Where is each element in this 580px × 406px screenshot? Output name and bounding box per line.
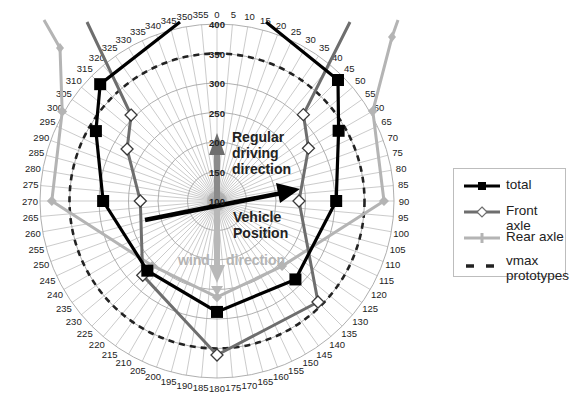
angle-tick-label: 5 <box>231 9 236 20</box>
angle-tick-label: 310 <box>66 75 82 86</box>
data-point-marker <box>330 195 342 207</box>
angle-tick-label: 165 <box>257 376 273 387</box>
annotation-wind-right: direction <box>226 252 285 268</box>
angle-tick-label: 250 <box>33 259 49 270</box>
radial-tick-label: 200 <box>209 137 225 148</box>
angle-tick-label: 65 <box>381 116 392 127</box>
legend-vmax-swatch-icon <box>462 259 502 273</box>
angle-tick-label: 200 <box>145 371 161 382</box>
angle-tick-label: 215 <box>102 349 118 360</box>
data-point-marker <box>293 195 305 207</box>
angle-tick-label: 105 <box>390 244 406 255</box>
angle-tick-label: 305 <box>56 88 72 99</box>
legend-item-vmax-prototypes: vmax prototypes <box>454 249 565 275</box>
angle-tick-label: 265 <box>23 212 39 223</box>
angle-tick-label: 245 <box>40 275 56 286</box>
angle-tick-label: 290 <box>33 132 49 143</box>
angle-tick-label: 135 <box>341 328 357 339</box>
wind-direction-arrow-icon <box>209 265 225 283</box>
radial-tick-label: 100 <box>209 196 225 207</box>
angle-tick-label: 110 <box>385 259 400 270</box>
legend-label-rear-axle: Rear axle <box>506 229 564 244</box>
angle-tick-label: 10 <box>244 11 255 22</box>
grid-spoke <box>142 41 217 201</box>
data-point-marker <box>211 306 223 318</box>
legend-item-rear-axle: Rear axle <box>454 225 565 251</box>
data-point-marker <box>94 78 106 90</box>
angle-tick-label: 100 <box>393 228 409 239</box>
angle-tick-label: 45 <box>344 63 355 74</box>
data-point-marker <box>121 143 133 155</box>
data-point-marker <box>141 265 153 277</box>
data-point-marker <box>332 74 344 86</box>
angle-tick-label: 220 <box>89 339 105 350</box>
angle-tick-label: 80 <box>396 163 407 174</box>
angle-tick-label: 35 <box>319 42 330 53</box>
radial-tick-label: 350 <box>209 49 225 60</box>
grid-spoke <box>142 201 217 361</box>
angle-tick-label: 30 <box>305 34 316 45</box>
legend-label-total: total <box>506 177 532 192</box>
data-point-marker <box>333 125 345 137</box>
angle-tick-label: 125 <box>362 303 378 314</box>
data-point-marker <box>302 142 314 154</box>
angle-tick-label: 255 <box>28 244 44 255</box>
angle-tick-label: 120 <box>371 289 387 300</box>
angle-tick-label: 150 <box>303 357 319 368</box>
angle-tick-label: 95 <box>398 212 409 223</box>
angle-tick-label: 280 <box>25 163 41 174</box>
angle-tick-label: 85 <box>398 179 409 190</box>
annotation-wind-left: wind <box>177 252 210 268</box>
legend-rear-axle-swatch-icon <box>462 231 502 245</box>
angle-tick-label: 130 <box>352 316 368 327</box>
annotation-vehicle-line2: Position <box>233 225 288 241</box>
angle-tick-label: 145 <box>316 349 332 360</box>
annotation-vehicle-line1: Vehicle <box>233 209 281 225</box>
data-point-marker <box>289 273 301 285</box>
legend-item-front-axle: Front axle <box>454 199 565 225</box>
angle-tick-label: 55 <box>365 88 376 99</box>
angle-tick-label: 90 <box>399 196 410 207</box>
angle-tick-label: 175 <box>225 382 241 393</box>
angle-tick-label: 350 <box>177 11 193 22</box>
angle-tick-label: 160 <box>273 371 289 382</box>
angle-tick-label: 25 <box>291 26 302 37</box>
radial-tick-label: 150 <box>209 167 225 178</box>
angle-tick-label: 295 <box>40 116 56 127</box>
radial-tick-label: 300 <box>209 78 225 89</box>
radial-tick-label: 250 <box>209 108 225 119</box>
angle-tick-label: 190 <box>177 380 193 391</box>
legend-item-total: total <box>454 173 565 199</box>
grid-spoke <box>156 35 217 201</box>
angle-tick-label: 185 <box>193 382 209 393</box>
wind-direction-shaft <box>214 205 220 270</box>
angle-tick-label: 70 <box>387 132 398 143</box>
data-point-marker <box>90 125 102 137</box>
angle-tick-label: 205 <box>130 365 146 376</box>
grid-spoke <box>156 201 217 367</box>
data-point-marker <box>212 292 222 302</box>
legend-total-swatch-icon <box>462 179 502 193</box>
angle-tick-label: 50 <box>355 75 366 86</box>
angle-tick-label: 155 <box>288 365 304 376</box>
angle-tick-label: 180 <box>209 383 225 394</box>
angle-tick-label: 235 <box>56 303 72 314</box>
angle-tick-label: 340 <box>145 20 161 31</box>
angle-tick-label: 240 <box>47 289 63 300</box>
angle-tick-label: 75 <box>392 147 403 158</box>
annotation-regular-line2: driving <box>232 145 279 161</box>
angle-tick-label: 225 <box>77 328 93 339</box>
angle-tick-label: 230 <box>66 316 82 327</box>
angle-tick-label: 195 <box>161 376 177 387</box>
angle-tick-label: 210 <box>116 357 132 368</box>
angle-tick-label: 270 <box>22 196 38 207</box>
chart-legend: total Front axle Rear axle vmax prototyp… <box>453 168 566 277</box>
data-point-marker <box>97 195 109 207</box>
annotation-regular-line3: direction <box>232 161 291 177</box>
legend-label-vmax-prototypes: vmax prototypes <box>506 253 569 283</box>
legend-front-axle-swatch-icon <box>462 205 502 219</box>
angle-tick-label: 315 <box>77 63 93 74</box>
angle-tick-label: 170 <box>242 380 258 391</box>
angle-tick-label: 0 <box>214 9 219 20</box>
data-point-marker <box>134 195 146 207</box>
